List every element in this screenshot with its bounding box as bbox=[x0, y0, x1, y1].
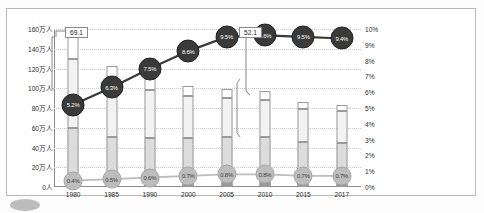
x-axis-tick: 2010 bbox=[258, 191, 273, 198]
y-axis-right-tick: 5% bbox=[365, 105, 375, 112]
chart-frame: 0人20万人40万人60万人80万人100万人120万人140万人160万人 0… bbox=[6, 8, 476, 196]
x-axis-tick: 1980 bbox=[66, 191, 81, 198]
y-axis-right-tick: 8% bbox=[365, 57, 375, 64]
y-axis-left-tick: 0人 bbox=[42, 182, 53, 192]
y-axis-right-tick: 4% bbox=[365, 120, 375, 127]
y-axis-right-tick: 0% bbox=[365, 184, 375, 191]
y-axis-right-tick: 9% bbox=[365, 41, 375, 48]
x-axis-tick: 2015 bbox=[296, 191, 311, 198]
chart-screenshot: 0人20万人40万人60万人80万人100万人120万人140万人160万人 0… bbox=[0, 0, 484, 213]
y-axis-left-tick: 140万人 bbox=[28, 44, 53, 54]
y-axis-left-tick: 80万人 bbox=[32, 103, 53, 113]
callout-leader bbox=[237, 79, 240, 137]
y-axis-left-tick: 120万人 bbox=[28, 64, 53, 74]
y-axis-left: 0人20万人40万人60万人80万人100万人120万人140万人160万人 bbox=[13, 29, 53, 187]
callout-leader bbox=[52, 37, 54, 89]
y-axis-right-tick: 10% bbox=[365, 26, 378, 33]
callout-leader-svg bbox=[54, 29, 361, 187]
y-axis-left-tick: 160万人 bbox=[28, 24, 53, 34]
y-axis-left-tick: 60万人 bbox=[32, 123, 53, 133]
callout-leader bbox=[246, 31, 250, 95]
callout-left: 69.1 bbox=[65, 27, 88, 38]
y-axis-left-tick: 40万人 bbox=[32, 143, 53, 153]
y-axis-right-tick: 3% bbox=[365, 136, 375, 143]
x-axis-tick: 2017 bbox=[334, 191, 349, 198]
x-axis-tick: 1990 bbox=[143, 191, 158, 198]
x-axis-tick: 1985 bbox=[104, 191, 119, 198]
y-axis-left-tick: 20万人 bbox=[32, 162, 53, 172]
callout-right: 52.1 bbox=[239, 27, 262, 38]
y-axis-right-tick: 7% bbox=[365, 73, 375, 80]
x-axis-tick: 2000 bbox=[181, 191, 196, 198]
y-axis-left-tick: 100万人 bbox=[28, 83, 53, 93]
x-axis: 19801985199020002005201020152017 bbox=[54, 189, 361, 203]
plot-area: 5.2%6.3%7.5%8.6%9.5%9.6%9.5%9.4%0.4%0.5%… bbox=[54, 29, 361, 187]
x-axis-tick: 2005 bbox=[219, 191, 234, 198]
y-axis-right-tick: 6% bbox=[365, 89, 375, 96]
y-axis-right: 0%1%2%3%4%5%6%7%8%9%10% bbox=[363, 29, 387, 187]
cursor-blob bbox=[10, 199, 40, 211]
y-axis-right-tick: 1% bbox=[365, 168, 375, 175]
y-axis-right-tick: 2% bbox=[365, 152, 375, 159]
